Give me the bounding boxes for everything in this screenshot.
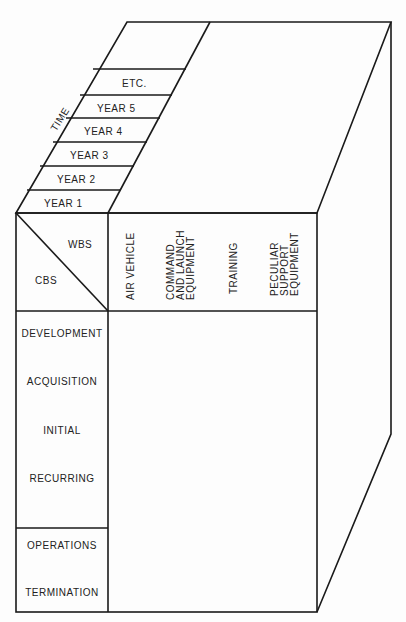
cbs-label: CBS bbox=[35, 275, 57, 286]
wbs-column-peculiar-support: PECULIAR SUPPORT EQUIPMENT bbox=[269, 232, 300, 296]
time-axis-label: TIME bbox=[48, 105, 71, 133]
wbs-column-air-vehicle: AIR VEHICLE bbox=[125, 232, 136, 300]
year-label: YEAR 2 bbox=[57, 174, 96, 185]
header-diagonal bbox=[16, 213, 108, 311]
cbs-row-termination: TERMINATION bbox=[25, 587, 99, 598]
year-label: YEAR 4 bbox=[84, 126, 123, 137]
cbs-row-operations: OPERATIONS bbox=[27, 540, 97, 551]
svg-text:EQUIPMENT: EQUIPMENT bbox=[185, 236, 196, 300]
svg-text:AIR VEHICLE: AIR VEHICLE bbox=[125, 232, 136, 300]
year-label: YEAR 5 bbox=[97, 103, 136, 114]
wbs-column-command-launch: COMMAND AND LAUNCH EQUIPMENT bbox=[165, 230, 196, 300]
cbs-row-development: DEVELOPMENT bbox=[21, 328, 102, 339]
wbs-column-training: TRAINING bbox=[228, 242, 239, 294]
year-label: ETC. bbox=[122, 78, 147, 89]
svg-text:EQUIPMENT: EQUIPMENT bbox=[289, 232, 300, 296]
wbs-label: WBS bbox=[68, 239, 92, 250]
cbs-row-initial: INITIAL bbox=[43, 425, 80, 436]
svg-text:TRAINING: TRAINING bbox=[228, 242, 239, 294]
cbs-row-acquisition: ACQUISITION bbox=[27, 376, 98, 387]
side-face bbox=[317, 22, 391, 612]
cbs-row-recurring: RECURRING bbox=[29, 473, 94, 484]
cost-cube-diagram: TIME YEAR 1 YEAR 2 YEAR 3 YEAR 4 YEAR 5 … bbox=[0, 0, 406, 622]
year-label: YEAR 3 bbox=[70, 150, 109, 161]
year-label: YEAR 1 bbox=[44, 198, 83, 209]
